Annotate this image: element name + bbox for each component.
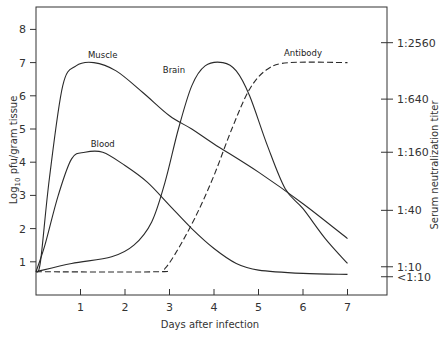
x-tick-label: 2 bbox=[122, 301, 129, 314]
x-tick-label: 6 bbox=[300, 301, 307, 314]
y-tick-label: 3 bbox=[19, 189, 26, 202]
right-tick-label: 1:2560 bbox=[397, 37, 436, 50]
series-lines bbox=[36, 62, 348, 274]
y-tick-label: 5 bbox=[19, 123, 26, 136]
series-label-blood: Blood bbox=[91, 139, 115, 149]
y-axis-ticks: 12345678 bbox=[19, 23, 36, 268]
y-tick-label: 8 bbox=[19, 23, 26, 36]
right-axis-ticks: 1:25601:6401:1601:401:10<1:10 bbox=[381, 37, 436, 284]
x-tick-label: 7 bbox=[344, 301, 351, 314]
series-label-antibody: Antibody bbox=[284, 48, 322, 58]
series-line-muscle bbox=[36, 62, 348, 272]
right-tick-label: 1:160 bbox=[397, 146, 429, 159]
right-axis-title: Serum neutralization titer bbox=[429, 100, 440, 230]
x-tick-label: 3 bbox=[166, 301, 173, 314]
series-line-blood bbox=[36, 151, 348, 274]
x-axis-ticks: 1234567 bbox=[77, 289, 351, 314]
right-tick-label: <1:10 bbox=[397, 271, 431, 284]
y-tick-label: 7 bbox=[19, 57, 26, 70]
series-line-antibody bbox=[36, 62, 348, 272]
y-tick-label: 6 bbox=[19, 90, 26, 103]
x-tick-label: 5 bbox=[255, 301, 262, 314]
right-tick-label: 1:640 bbox=[397, 93, 429, 106]
x-tick-label: 1 bbox=[77, 301, 84, 314]
series-label-muscle: Muscle bbox=[88, 50, 117, 60]
chart: 1234567 12345678 1:25601:6401:1601:401:1… bbox=[0, 0, 448, 339]
series-line-brain bbox=[36, 62, 348, 272]
x-tick-label: 4 bbox=[211, 301, 218, 314]
series-label-brain: Brain bbox=[163, 65, 185, 75]
right-tick-label: 1:40 bbox=[397, 204, 422, 217]
x-axis-title: Days after infection bbox=[161, 319, 259, 330]
svg-text:Log10 pfu/gram tissue: Log10 pfu/gram tissue bbox=[8, 96, 22, 205]
y-tick-label: 1 bbox=[19, 256, 26, 269]
y-axis-title: Log10 pfu/gram tissue bbox=[8, 96, 22, 205]
y-tick-label: 4 bbox=[19, 156, 26, 169]
y-tick-label: 2 bbox=[19, 223, 26, 236]
